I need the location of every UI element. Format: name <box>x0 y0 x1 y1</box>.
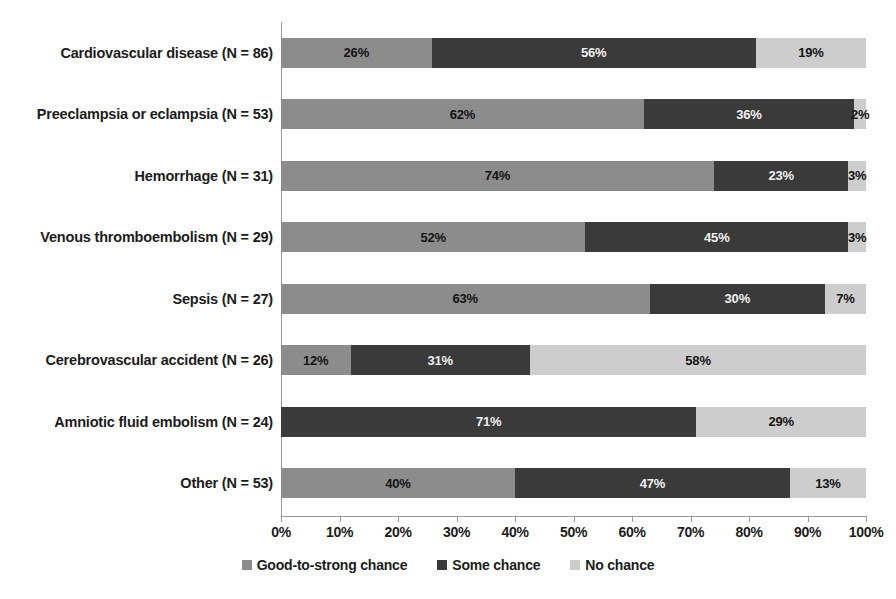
x-axis-tick <box>281 516 282 522</box>
x-axis-tick <box>691 516 692 522</box>
stacked-bar: 52%45%3% <box>281 222 866 252</box>
segment-value-label: 23% <box>768 168 793 183</box>
x-axis-tick <box>749 516 750 522</box>
legend-label: No chance <box>585 557 654 573</box>
chart-row: Sepsis (N = 27)63%30%7% <box>281 268 866 330</box>
segment-some-chance: 36% <box>644 99 855 129</box>
x-axis-tick-label: 20% <box>384 524 411 540</box>
x-axis-tick-label: 100% <box>849 524 884 540</box>
plot-area: Cardiovascular disease (N = 86)26%56%19%… <box>281 22 866 514</box>
stacked-bar: 63%30%7% <box>281 284 866 314</box>
stacked-bar: 62%36%2% <box>281 99 866 129</box>
x-axis-tick <box>574 516 575 522</box>
chart-row: Other (N = 53)40%47%13% <box>281 453 866 515</box>
x-axis-tick <box>457 516 458 522</box>
segment-value-label: 71% <box>476 414 501 429</box>
segment-value-label: 36% <box>736 107 761 122</box>
category-label: Cardiovascular disease (N = 86) <box>3 22 273 84</box>
stacked-bar: 71%29% <box>281 407 866 437</box>
category-label: Hemorrhage (N = 31) <box>3 145 273 207</box>
x-axis-tick-label: 0% <box>271 524 291 540</box>
segment-value-label: 29% <box>768 414 793 429</box>
x-axis-tick <box>398 516 399 522</box>
x-axis-tick <box>515 516 516 522</box>
legend-label: Some chance <box>452 557 540 573</box>
segment-no-chance: 29% <box>696 407 866 437</box>
segment-some-chance: 56% <box>432 38 756 68</box>
x-axis-tick-label: 90% <box>794 524 821 540</box>
segment-value-label: 31% <box>428 353 453 368</box>
segment-some-chance: 23% <box>714 161 849 191</box>
segment-value-label: 40% <box>385 476 410 491</box>
category-label: Preeclampsia or eclampsia (N = 53) <box>3 84 273 146</box>
category-label: Cerebrovascular accident (N = 26) <box>3 330 273 392</box>
segment-value-label: 3% <box>848 168 866 183</box>
segment-value-label: 30% <box>725 291 750 306</box>
segment-value-label: 13% <box>815 476 840 491</box>
segment-value-label: 7% <box>836 291 854 306</box>
x-axis-tick-label: 40% <box>501 524 528 540</box>
chart-row: Cardiovascular disease (N = 86)26%56%19% <box>281 22 866 84</box>
chart-row: Cerebrovascular accident (N = 26)12%31%5… <box>281 330 866 392</box>
chart-row: Preeclampsia or eclampsia (N = 53)62%36%… <box>281 84 866 146</box>
segment-value-label: 19% <box>798 45 823 60</box>
legend-swatch-icon <box>570 560 580 570</box>
category-label: Venous thromboembolism (N = 29) <box>3 207 273 269</box>
segment-some-chance: 30% <box>650 284 826 314</box>
chart-row: Hemorrhage (N = 31)74%23%3% <box>281 145 866 207</box>
segment-no-chance: 58% <box>530 345 866 375</box>
legend-item[interactable]: No chance <box>570 557 654 573</box>
segment-no-chance: 7% <box>825 284 866 314</box>
legend-label: Good-to-strong chance <box>257 557 408 573</box>
segment-some-chance: 71% <box>281 407 696 437</box>
chart-legend: Good-to-strong chanceSome chanceNo chanc… <box>0 557 896 573</box>
segment-value-label: 3% <box>848 230 866 245</box>
segment-no-chance: 3% <box>848 161 866 191</box>
segment-good-to-strong-chance: 40% <box>281 468 515 498</box>
stacked-bar: 40%47%13% <box>281 468 866 498</box>
segment-value-label: 47% <box>640 476 665 491</box>
segment-no-chance: 19% <box>756 38 866 68</box>
segment-good-to-strong-chance: 74% <box>281 161 714 191</box>
category-label: Sepsis (N = 27) <box>3 268 273 330</box>
segment-good-to-strong-chance: 63% <box>281 284 650 314</box>
segment-good-to-strong-chance: 26% <box>281 38 432 68</box>
segment-value-label: 45% <box>704 230 729 245</box>
legend-item[interactable]: Good-to-strong chance <box>242 557 408 573</box>
x-axis-tick-label: 80% <box>735 524 762 540</box>
segment-value-label: 58% <box>685 353 710 368</box>
stacked-bar: 12%31%58% <box>281 345 866 375</box>
segment-some-chance: 31% <box>351 345 531 375</box>
segment-no-chance: 2% <box>854 99 866 129</box>
x-axis-tick-label: 60% <box>618 524 645 540</box>
x-axis-ticks: 0%10%20%30%40%50%60%70%80%90%100% <box>281 516 867 548</box>
category-label: Amniotic fluid embolism (N = 24) <box>3 391 273 453</box>
x-axis-tick <box>340 516 341 522</box>
x-axis-tick-label: 30% <box>443 524 470 540</box>
segment-value-label: 2% <box>851 107 869 122</box>
stacked-bar: 26%56%19% <box>281 38 866 68</box>
legend-swatch-icon <box>242 560 252 570</box>
segment-value-label: 56% <box>581 45 606 60</box>
segment-good-to-strong-chance: 62% <box>281 99 644 129</box>
stacked-bar-chart: Cardiovascular disease (N = 86)26%56%19%… <box>0 0 896 599</box>
segment-value-label: 62% <box>450 107 475 122</box>
segment-value-label: 52% <box>420 230 445 245</box>
legend-swatch-icon <box>437 560 447 570</box>
x-axis-tick <box>808 516 809 522</box>
category-label: Other (N = 53) <box>3 453 273 515</box>
chart-row: Amniotic fluid embolism (N = 24)71%29% <box>281 391 866 453</box>
x-axis-tick-label: 10% <box>326 524 353 540</box>
segment-value-label: 12% <box>303 353 328 368</box>
segment-value-label: 26% <box>344 45 369 60</box>
x-axis-tick <box>866 516 867 522</box>
segment-good-to-strong-chance: 12% <box>281 345 351 375</box>
x-axis-tick-label: 50% <box>560 524 587 540</box>
x-axis-tick <box>632 516 633 522</box>
segment-no-chance: 3% <box>848 222 866 252</box>
segment-value-label: 74% <box>485 168 510 183</box>
segment-some-chance: 47% <box>515 468 790 498</box>
segment-good-to-strong-chance: 52% <box>281 222 585 252</box>
legend-item[interactable]: Some chance <box>437 557 540 573</box>
segment-no-chance: 13% <box>790 468 866 498</box>
